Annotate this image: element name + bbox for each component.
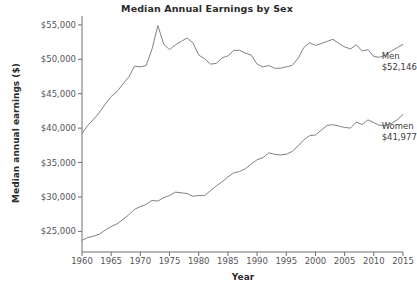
annotation-men-name: Men: [382, 51, 417, 62]
x-axis-tick-label: 1985: [217, 256, 239, 266]
series-annotation-women: Women$41,977: [382, 121, 417, 143]
series-line-women: [82, 115, 403, 241]
series-line-men: [82, 26, 403, 134]
x-axis-tick-label: 1980: [188, 256, 210, 266]
x-axis-label: Year: [82, 272, 404, 282]
annotation-women-name: Women: [382, 121, 417, 132]
series-annotation-men: Men$52,146: [382, 51, 417, 73]
x-axis-tick-label: 1970: [130, 256, 152, 266]
x-axis-tick-label: 1960: [71, 256, 93, 266]
annotation-men-value: $52,146: [382, 62, 417, 73]
x-axis-tick-label: 2015: [392, 256, 414, 266]
x-axis-tick-label: 1965: [100, 256, 122, 266]
x-axis-tick-label: 1990: [246, 256, 268, 266]
x-axis-tick-label: 2010: [363, 256, 385, 266]
x-axis-tick-label: 1995: [275, 256, 297, 266]
x-axis-tick-label: 2005: [334, 256, 356, 266]
annotation-women-value: $41,977: [382, 132, 417, 143]
x-axis-tick-label: 2000: [305, 256, 327, 266]
x-axis-tick-label: 1975: [159, 256, 181, 266]
